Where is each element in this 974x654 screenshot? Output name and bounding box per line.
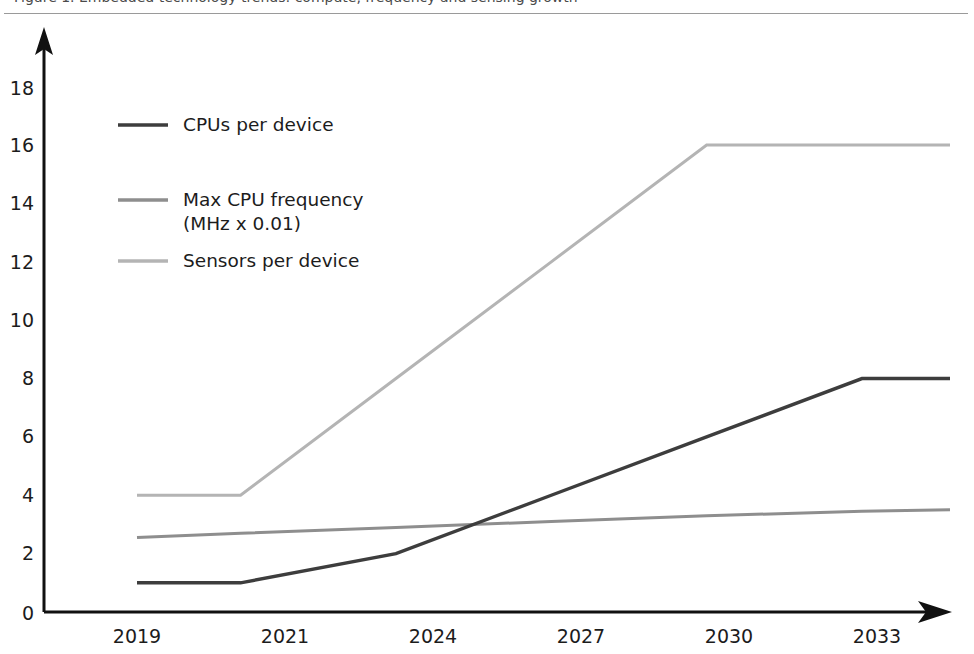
y-tick-label: 16: [10, 134, 34, 156]
y-tick-label: 14: [10, 192, 34, 214]
line-chart: 18 16 14 12 10 8 6 4 2 0 2019 2021 2024 …: [0, 0, 974, 654]
legend-entry-sensors-per-device[interactable]: Sensors per device: [118, 250, 359, 271]
legend-label-line2: (MHz x 0.01): [183, 213, 301, 234]
series-group: [137, 145, 950, 583]
y-tick-labels: 18 16 14 12 10 8 6 4 2 0: [10, 77, 34, 624]
y-tick-label: 12: [10, 251, 34, 273]
y-tick-label: 8: [22, 367, 34, 389]
y-tick-label: 2: [22, 542, 34, 564]
chart-page: Figure 1. Embedded technology trends: co…: [0, 0, 974, 654]
legend-entry-max-cpu-frequency[interactable]: Max CPU frequency (MHz x 0.01): [118, 189, 363, 234]
legend-label: Sensors per device: [183, 250, 359, 271]
x-tick-label: 2027: [557, 625, 605, 647]
x-tick-labels: 2019 2021 2024 2027 2030 2033: [113, 625, 901, 647]
legend-label: CPUs per device: [183, 114, 334, 135]
x-tick-label: 2021: [261, 625, 309, 647]
x-tick-label: 2024: [409, 625, 457, 647]
chart-legend: CPUs per device Max CPU frequency (MHz x…: [118, 114, 363, 271]
y-tick-label: 4: [22, 484, 34, 506]
y-tick-label: 6: [22, 425, 34, 447]
y-tick-label: 0: [22, 602, 34, 624]
y-axis: [35, 27, 53, 612]
legend-entry-cpus-per-device[interactable]: CPUs per device: [118, 114, 334, 135]
legend-label: Max CPU frequency: [183, 189, 363, 210]
x-tick-label: 2030: [705, 625, 753, 647]
x-tick-label: 2033: [853, 625, 901, 647]
y-tick-label: 10: [10, 309, 34, 331]
y-tick-label: 18: [10, 77, 34, 99]
x-tick-label: 2019: [113, 625, 161, 647]
x-axis: [44, 601, 952, 623]
series-line-max-cpu-frequency: [137, 510, 950, 538]
